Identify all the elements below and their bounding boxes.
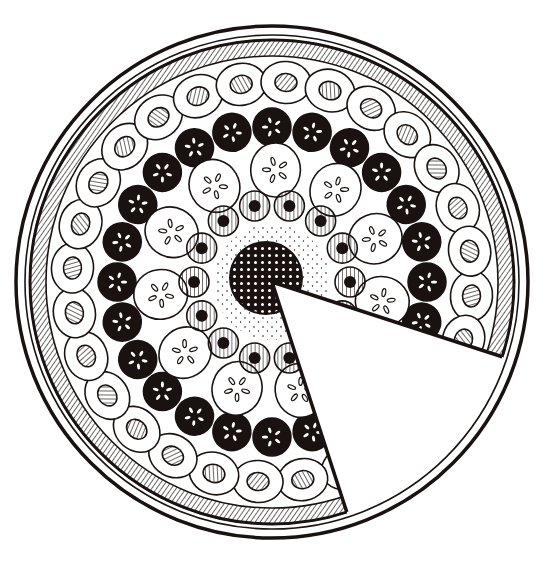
fruit-slice-hatched: [306, 206, 336, 236]
fruit-slice-hatched: [208, 206, 238, 236]
fruit-slice-light: [387, 385, 452, 450]
fruit-slice-hatched: [208, 328, 238, 358]
fruit-slice-hatched: [306, 328, 336, 358]
fruit-slice-pale: [318, 321, 391, 394]
tart-drawing: [0, 0, 552, 569]
tart-illustration: Fruit tart with one slice removed: [0, 0, 552, 569]
fruit-slice-light: [353, 415, 418, 478]
fruit-slice-dark: [253, 418, 291, 456]
fruit-slice-light: [415, 349, 476, 413]
berry-cluster: [230, 242, 302, 314]
fruit-slice-hatched: [240, 191, 270, 221]
fruit-slice-dark: [98, 263, 136, 301]
fruit-slice-dark: [363, 153, 401, 191]
fruit-slice-pale: [250, 142, 301, 198]
fruit-slice-dark: [380, 334, 432, 386]
fruit-slice-hatched: [187, 233, 217, 263]
fruit-slice-dark: [253, 108, 291, 146]
fruit-slice-hatched: [187, 301, 217, 331]
fruit-slice-hatched: [274, 191, 304, 221]
fruit-slice-hatched: [327, 233, 357, 263]
fruit-slice-dark: [408, 263, 446, 301]
fruit-slice-hatched: [240, 343, 270, 373]
fruit-slice-dark: [324, 390, 376, 442]
fruit-slice-dark: [363, 373, 401, 411]
fruit-slice-dark: [143, 373, 181, 411]
fruit-slice-dark: [143, 153, 181, 191]
fruit-slice-hatched: [335, 267, 365, 297]
fruit-slice-hatched: [179, 267, 209, 297]
